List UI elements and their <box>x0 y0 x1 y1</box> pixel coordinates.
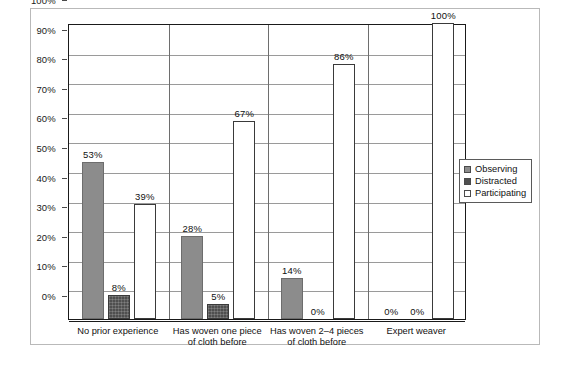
x-axis-category-label: No prior experience <box>77 326 158 337</box>
bar-value-label: 53% <box>83 149 103 160</box>
bar-participating[interactable] <box>134 204 156 319</box>
x-axis-category-label: Has woven one piece of cloth before <box>173 326 262 348</box>
y-axis-tick-label: 40% <box>16 172 56 183</box>
legend-swatch-observing-icon <box>464 166 471 173</box>
bar-value-label: 14% <box>282 265 302 276</box>
y-axis-tick-label: 60% <box>16 113 56 124</box>
y-axis-tick-label: 100% <box>16 0 56 6</box>
bar-value-label: 100% <box>431 10 456 21</box>
legend-item-participating[interactable]: Participating <box>464 187 526 199</box>
legend-item-distracted[interactable]: Distracted <box>464 175 526 187</box>
y-axis-tick-mark <box>62 59 67 60</box>
bar-value-label: 0% <box>384 306 398 317</box>
bar-group: 28%5%67% <box>169 25 269 319</box>
bar-value-label: 67% <box>234 108 254 119</box>
bar-group: 14%0%86% <box>268 25 368 319</box>
legend-item-label: Distracted <box>475 176 517 186</box>
y-axis-tick-mark <box>62 207 67 208</box>
group-separator <box>169 25 170 319</box>
bar-value-label: 28% <box>182 223 202 234</box>
y-axis-tick-mark <box>62 0 67 1</box>
y-axis-tick-mark <box>62 30 67 31</box>
y-axis-tick-label: 90% <box>16 24 56 35</box>
chart-legend: ObservingDistractedParticipating <box>459 159 532 203</box>
legend-item-label: Participating <box>475 188 526 198</box>
y-axis-tick-label: 70% <box>16 83 56 94</box>
bar-value-label: 86% <box>334 51 354 62</box>
y-axis-tick-mark <box>62 237 67 238</box>
y-axis-tick-label: 80% <box>16 54 56 65</box>
bar-value-label: 5% <box>211 291 225 302</box>
chart-figure: 0%10%20%30%40%50%60%70%80%90%100% 53%8%3… <box>0 0 561 371</box>
group-separator <box>268 25 269 319</box>
x-axis-category-label: Expert weaver <box>387 326 446 337</box>
y-axis-tick-mark <box>62 266 67 267</box>
bar-observing[interactable] <box>181 236 203 319</box>
bar-participating[interactable] <box>233 121 255 319</box>
y-axis-tick-label: 30% <box>16 202 56 213</box>
bar-value-label: 39% <box>135 191 155 202</box>
y-axis-tick-label: 50% <box>16 143 56 154</box>
bar-distracted[interactable] <box>108 295 130 319</box>
bar-observing[interactable] <box>281 278 303 319</box>
bar-group: 53%8%39% <box>69 25 169 319</box>
bar-value-label: 0% <box>311 306 325 317</box>
gridline <box>69 321 465 322</box>
y-axis-tick-mark <box>62 89 67 90</box>
y-axis-tick-mark <box>62 118 67 119</box>
bar-distracted[interactable] <box>207 304 229 319</box>
y-axis-tick-label: 0% <box>16 291 56 302</box>
y-axis-tick-labels: 0%10%20%30%40%50%60%70%80%90%100% <box>20 0 62 296</box>
bar-group: 0%0%100% <box>368 25 468 319</box>
bar-value-label: 8% <box>112 282 126 293</box>
bar-observing[interactable] <box>82 162 104 319</box>
y-axis-tick-mark <box>62 148 67 149</box>
bar-participating[interactable] <box>333 64 355 319</box>
legend-swatch-distracted-icon <box>464 178 471 185</box>
y-axis-tick-mark <box>62 296 67 297</box>
y-axis-tick-label: 10% <box>16 261 56 272</box>
legend-item-label: Observing <box>475 164 517 174</box>
bar-value-label: 0% <box>410 306 424 317</box>
x-axis-category-label: Has woven 2–4 pieces of cloth before <box>270 326 364 348</box>
group-separator <box>368 25 369 319</box>
legend-swatch-participating-icon <box>464 190 471 197</box>
bar-participating[interactable] <box>432 23 454 319</box>
plot-area: 53%8%39%28%5%67%14%0%86%0%0%100% <box>68 24 466 320</box>
y-axis-tick-label: 20% <box>16 231 56 242</box>
legend-item-observing[interactable]: Observing <box>464 163 526 175</box>
y-axis-tick-mark <box>62 178 67 179</box>
